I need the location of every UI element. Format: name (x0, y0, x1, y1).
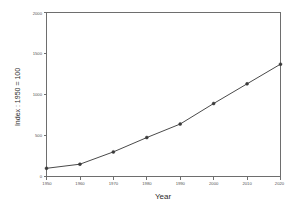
x-tick-label: 1950 (42, 181, 52, 186)
y-tick-label: 2000 (33, 11, 43, 16)
x-tick-label: 2020 (275, 181, 285, 186)
x-tick-label: 1980 (142, 181, 152, 186)
x-tick-label: 1990 (176, 181, 186, 186)
y-tick-label: 500 (35, 133, 43, 138)
data-point (279, 63, 282, 66)
y-tick-label: 1000 (33, 92, 43, 97)
data-point (78, 163, 81, 166)
y-axis-title: Index : 1950 = 100 (14, 68, 21, 126)
y-tick-label: 1500 (33, 51, 43, 56)
data-point (112, 150, 115, 153)
data-point (45, 167, 48, 170)
x-tick-label: 2000 (209, 181, 219, 186)
data-point (145, 136, 148, 139)
data-point (212, 102, 215, 105)
x-tick-label: 1960 (75, 181, 85, 186)
x-tick-label: 1970 (109, 181, 119, 186)
x-tick-label: 2010 (242, 181, 252, 186)
chart-figure: 0 500 1000 1500 2000 1950 1960 1970 1980… (0, 0, 297, 208)
line-chart: 0 500 1000 1500 2000 1950 1960 1970 1980… (0, 0, 297, 208)
data-point (179, 123, 182, 126)
data-point (246, 82, 249, 85)
x-axis-title: Year (155, 192, 172, 201)
